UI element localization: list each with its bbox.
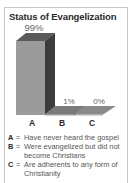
value-label-a: 99% (24, 22, 44, 33)
legend-item-c: C = Are adherents to any form of Christi… (8, 160, 126, 178)
value-label-b: 1% (63, 97, 75, 106)
legend-text-b: Were evangelized but did not become Chri… (24, 142, 126, 160)
legend-key-c: C (8, 160, 16, 178)
value-label-c: 0% (93, 97, 105, 106)
chart-legend: A = Have never heard the gospel B = Were… (8, 133, 126, 178)
category-label-b: B (59, 118, 65, 128)
legend-key-a: A (8, 133, 16, 142)
legend-text-c: Are adherents to any form of Christianit… (24, 160, 126, 178)
legend-equals: = (16, 160, 24, 178)
category-label-c: C (89, 118, 95, 128)
legend-item-b: B = Were evangelized but did not become … (8, 142, 126, 160)
legend-equals: = (16, 133, 24, 142)
legend-text-a: Have never heard the gospel (24, 133, 126, 142)
legend-item-a: A = Have never heard the gospel (8, 133, 126, 142)
legend-key-b: B (8, 142, 16, 160)
legend-equals: = (16, 142, 24, 160)
bar-a (16, 33, 55, 115)
category-label-a: A (29, 118, 35, 128)
